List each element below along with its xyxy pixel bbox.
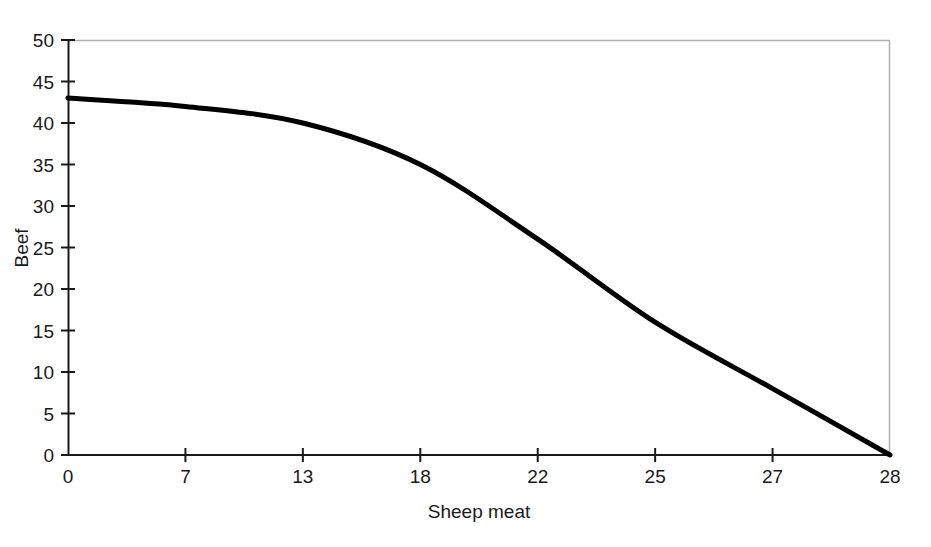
x-tick-label: 27 — [762, 466, 783, 487]
y-tick-label: 35 — [33, 155, 54, 176]
ppf-line-chart: 05101520253035404550 07131822252728 Beef… — [0, 0, 931, 547]
y-tick-label: 10 — [33, 362, 54, 383]
x-tick-label: 0 — [63, 466, 74, 487]
x-tick-label: 18 — [410, 466, 431, 487]
y-tick-label: 25 — [33, 238, 54, 259]
y-tick-label: 30 — [33, 196, 54, 217]
series-line-beef-vs-sheep-meat — [68, 98, 890, 455]
y-tick-label: 40 — [33, 113, 54, 134]
y-tick-label: 5 — [43, 404, 54, 425]
x-axis-title: Sheep meat — [428, 501, 531, 522]
x-tick-label: 25 — [645, 466, 666, 487]
x-axis-ticks: 07131822252728 — [63, 448, 901, 487]
chart-figure: 05101520253035404550 07131822252728 Beef… — [0, 0, 931, 547]
y-tick-label: 50 — [33, 30, 54, 51]
plot-frame — [68, 41, 890, 456]
y-tick-label: 15 — [33, 321, 54, 342]
y-tick-label: 20 — [33, 279, 54, 300]
y-axis-title: Beef — [11, 228, 32, 268]
y-tick-label: 45 — [33, 72, 54, 93]
x-tick-label: 7 — [180, 466, 191, 487]
x-tick-label: 22 — [527, 466, 548, 487]
x-tick-label: 13 — [292, 466, 313, 487]
y-tick-label: 0 — [43, 445, 54, 466]
x-tick-label: 28 — [879, 466, 900, 487]
